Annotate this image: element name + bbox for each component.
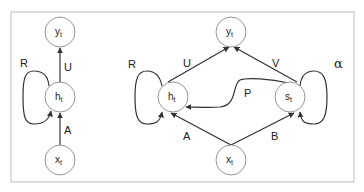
right-label-x-to-s: B (271, 130, 278, 142)
right-node-x: xt (216, 145, 246, 175)
left-node-h: ht (45, 82, 75, 112)
right-label-h-recurrent: R (128, 58, 136, 70)
right-label-x-to-h: A (183, 130, 191, 142)
left-label-recurrent: R (20, 57, 28, 69)
left-node-x: xt (45, 145, 75, 175)
left-label-output: U (64, 61, 72, 73)
right-label-s-output: V (272, 57, 280, 69)
right-label-s-recurrent: α (334, 56, 343, 71)
right-label-s-to-h: P (244, 87, 251, 99)
left-label-input: A (64, 124, 72, 136)
right-node-y: yt (216, 17, 246, 47)
left-node-y: yt (45, 17, 75, 47)
right-label-h-output: U (183, 57, 191, 69)
rnn-diagram: R U A yt ht xt R α U V P A B (0, 0, 364, 192)
right-node-h: ht (158, 82, 188, 112)
right-node-s: st (275, 82, 305, 112)
